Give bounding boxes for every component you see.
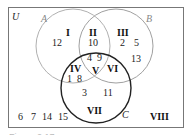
region-vii-element: 3: [82, 87, 87, 98]
region-i-label: I: [66, 27, 70, 38]
region-i-element: 12: [52, 37, 62, 48]
region-viii-element: 6: [18, 111, 23, 122]
region-viii-label: VIII: [150, 111, 169, 122]
figure-caption: Figure 2.17: [9, 132, 55, 135]
set-c-label: C: [122, 109, 129, 120]
set-b-label: B: [146, 13, 152, 24]
region-viii-element: 15: [58, 111, 68, 122]
universe-label: U: [12, 11, 20, 22]
region-ii-element: 10: [88, 37, 98, 48]
region-v-element: 9: [97, 52, 102, 63]
set-a-label: A: [40, 13, 48, 24]
region-vii-label: VII: [87, 105, 102, 116]
region-iv-element: 1: [67, 73, 72, 84]
region-viii-element: 14: [42, 111, 52, 122]
region-iii-element: 2: [120, 37, 125, 48]
region-vii-element: 11: [103, 87, 113, 98]
region-viii-element: 7: [31, 111, 36, 122]
region-iii-element: 5: [134, 37, 139, 48]
region-iii-element: 13: [131, 53, 141, 64]
region-iv-element: 8: [77, 73, 82, 84]
venn-diagram: U A B C I 12 II 10 III 2 5 13 4 9 IV 1 8…: [0, 0, 188, 135]
region-v-element: 4: [87, 52, 92, 63]
region-vi-label: VI: [107, 63, 118, 74]
region-v-label: V: [92, 65, 100, 76]
